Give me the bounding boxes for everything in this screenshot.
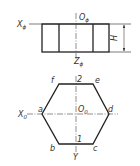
vertex-label-f: f [51, 76, 55, 85]
front-view-outline [42, 24, 109, 52]
label-y-axis: Y [73, 153, 79, 162]
label-origin-0: O0 [78, 105, 88, 115]
projection-diagram: Xϕ Oϕ Zϕ H X0 O0 a b c d e f 2 1 Y [0, 0, 140, 166]
vertex-label-d: d [108, 105, 114, 114]
arrow-down-icon [123, 48, 125, 52]
arrow-up-icon [123, 25, 125, 29]
label-x0: X0 [17, 110, 27, 120]
label-dimension-h: H [110, 35, 119, 41]
label-origin-phi: Oϕ [79, 13, 89, 24]
top-view: X0 O0 a b c d e f 2 1 Y [17, 75, 118, 162]
label-z-phi: Zϕ [73, 57, 83, 68]
vertex-label-e: e [95, 76, 100, 85]
label-x-phi: Xϕ [16, 20, 26, 31]
vertex-label-a: a [38, 105, 43, 114]
vertex-label-c: c [93, 144, 98, 153]
point-label-2: 2 [77, 75, 82, 84]
vertex-label-b: b [50, 144, 55, 153]
point-label-1: 1 [77, 135, 82, 144]
front-view: Xϕ Oϕ Zϕ H [16, 13, 131, 68]
